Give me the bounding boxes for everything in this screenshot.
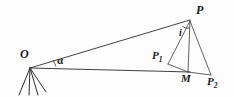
label-point-M: M xyxy=(181,73,191,84)
label-point-P1: P1 xyxy=(152,50,162,64)
segment-O-M xyxy=(30,68,190,72)
segment-O-P xyxy=(30,20,190,68)
segment-P-M xyxy=(188,21,190,72)
label-point-P1-base: P xyxy=(152,49,159,61)
geometry-diagram: P O M i α P1 P2 xyxy=(0,0,234,98)
tripod-leg-1 xyxy=(19,68,30,95)
angle-arc-alpha xyxy=(53,60,56,66)
label-angle-alpha: α xyxy=(57,55,63,66)
label-point-P2: P2 xyxy=(207,76,217,90)
angle-arc-i xyxy=(183,27,190,29)
label-point-P2-subscript: 2 xyxy=(214,81,218,90)
label-point-P1-subscript: 1 xyxy=(159,55,163,64)
segment-P1-M xyxy=(168,64,188,72)
segment-P-P2 xyxy=(190,21,211,75)
tripod-leg-4 xyxy=(30,68,46,92)
label-point-P2-base: P xyxy=(207,75,214,87)
label-point-O: O xyxy=(20,48,29,60)
tripod-leg-2 xyxy=(29,68,30,95)
label-angle-i: i xyxy=(179,28,182,38)
label-point-P: P xyxy=(196,4,203,16)
tripod-leg-3 xyxy=(30,68,38,95)
